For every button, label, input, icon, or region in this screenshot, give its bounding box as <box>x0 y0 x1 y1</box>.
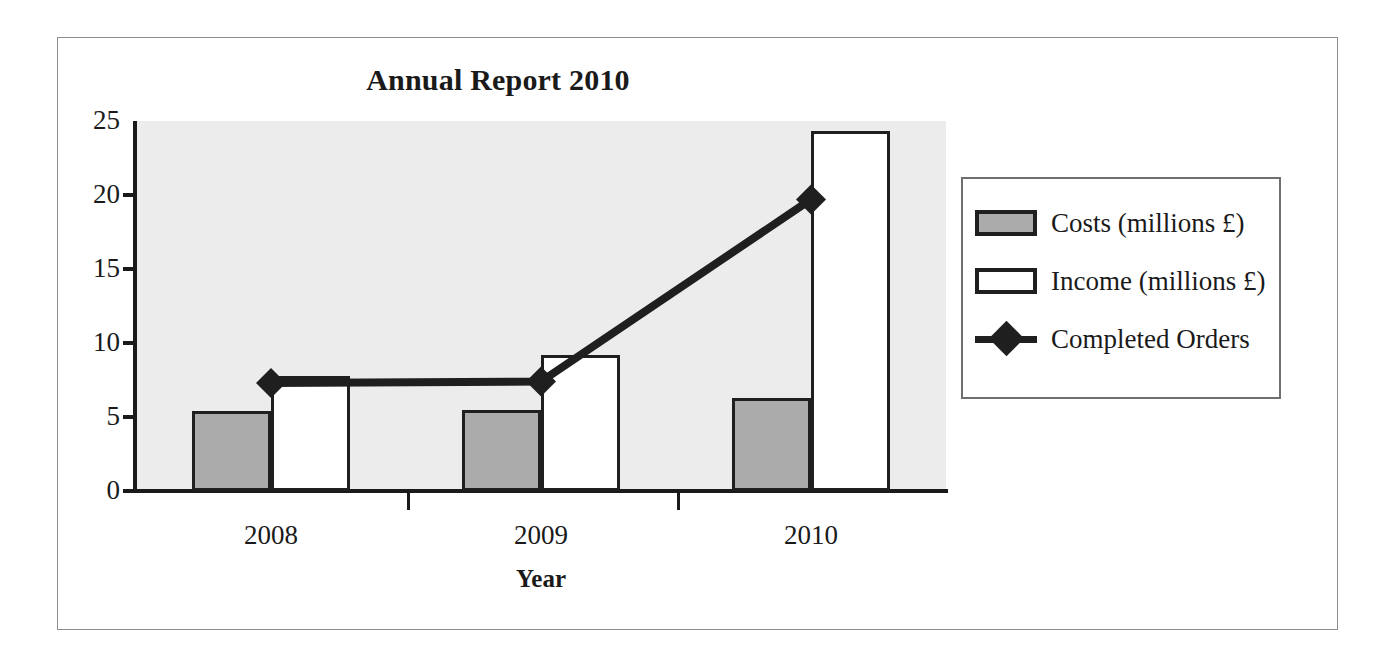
bar-income-2008 <box>271 376 350 491</box>
y-axis-line <box>133 121 137 493</box>
x-cat-label-2008: 2008 <box>201 520 341 551</box>
legend-item-completed-orders: Completed Orders <box>975 313 1250 365</box>
y-tick-label-5: 5 <box>74 403 120 430</box>
y-tick-label-0: 0 <box>74 477 120 504</box>
y-axis-tick-labels: 25 20 15 10 5 0 <box>58 38 120 558</box>
legend-label-income: Income (millions £) <box>1051 266 1265 296</box>
y-tick-label-10: 10 <box>74 329 120 356</box>
bar-costs-2010 <box>732 398 811 491</box>
y-tick-label-25: 25 <box>74 107 120 134</box>
bar-costs-2009 <box>462 410 541 491</box>
chart-figure-frame: Annual Report 2010 25 20 15 10 5 0 2008 … <box>57 37 1338 630</box>
bar-income-2009 <box>541 355 620 491</box>
y-tick-label-20: 20 <box>74 181 120 208</box>
y-tick-mark-10 <box>123 341 137 345</box>
legend-swatch-income-icon <box>975 268 1037 294</box>
x-axis-title: Year <box>136 565 946 593</box>
y-tick-mark-20 <box>123 193 137 197</box>
bar-costs-2008 <box>192 411 271 491</box>
chart-legend: Costs (millions £) Income (millions £) C… <box>961 177 1281 399</box>
y-tick-mark-5 <box>123 415 137 419</box>
x-tick-mark-1 <box>407 493 410 510</box>
legend-swatch-costs-icon <box>975 210 1037 236</box>
chart-title: Annual Report 2010 <box>58 63 938 97</box>
bar-income-2010 <box>811 131 890 491</box>
legend-diamond-marker-icon <box>975 326 1037 352</box>
y-tick-label-15: 15 <box>74 255 120 282</box>
x-cat-label-2009: 2009 <box>471 520 611 551</box>
y-tick-mark-15 <box>123 267 137 271</box>
legend-item-costs: Costs (millions £) <box>975 197 1245 249</box>
x-cat-label-2010: 2010 <box>741 520 881 551</box>
legend-label-costs: Costs (millions £) <box>1051 208 1245 238</box>
x-tick-mark-2 <box>677 493 680 510</box>
legend-label-completed-orders: Completed Orders <box>1051 324 1250 354</box>
legend-item-income: Income (millions £) <box>975 255 1265 307</box>
